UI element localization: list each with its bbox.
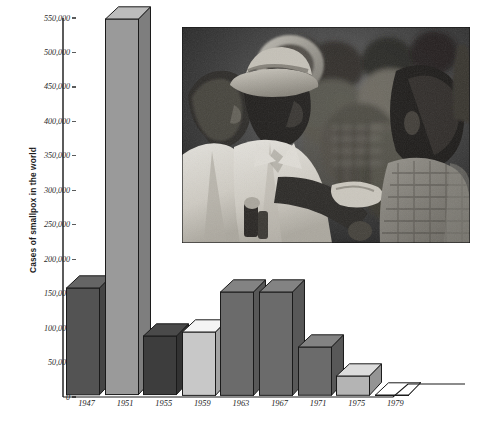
x-axis-tick-label-1951: 1951 (104, 399, 146, 408)
y-axis-tick: 500,000 (0, 47, 72, 57)
x-axis-tick-label-1971: 1971 (297, 399, 339, 408)
y-axis-tick: 100,000 (0, 323, 72, 333)
photograph-graphic (182, 27, 470, 243)
y-axis-tick: 450,000 (0, 82, 72, 92)
y-axis-tick: 550,000 (0, 13, 72, 23)
y-axis-tick: 400,000 (0, 116, 72, 126)
x-axis-tick-label-1955: 1955 (143, 399, 185, 408)
y-axis-tick: 150,000 (0, 289, 72, 299)
bar-front-face (221, 292, 254, 395)
x-axis-tick-label-1947: 1947 (66, 399, 108, 408)
smallpox-cases-bar-chart-figure: 550,000500,000450,000400,000350,000300,0… (0, 0, 477, 421)
x-axis-tick-label-1967: 1967 (259, 399, 301, 408)
smallpox-campaign-photograph (182, 27, 470, 243)
x-axis-tick-label-1963: 1963 (220, 399, 262, 408)
x-axis-tick-label-1979: 1979 (374, 399, 416, 408)
x-axis-tick-label-1959: 1959 (181, 399, 223, 408)
y-axis-title: Cases of smallpox in the world (28, 130, 38, 290)
y-axis-tick: 0 (0, 392, 72, 402)
bar-front-face (67, 288, 100, 395)
bar-front-face (260, 292, 293, 395)
x-axis-tick-label-1975: 1975 (336, 399, 378, 408)
x-axis-floor (63, 383, 465, 399)
y-axis-tick: 50,000 (0, 358, 72, 368)
bar-front-face (105, 19, 138, 395)
